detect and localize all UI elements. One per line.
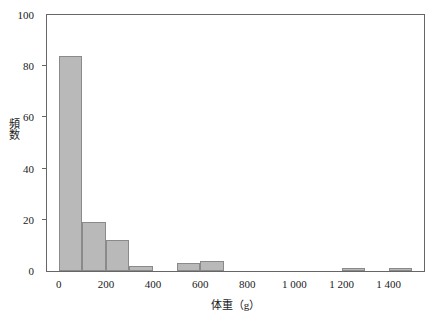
x-axis-tick-label: 1 000 [282, 276, 307, 292]
y-axis-tick-label: 60 [23, 109, 34, 125]
x-axis-tick-label: 0 [56, 276, 62, 292]
y-axis-tick-label: 40 [23, 161, 34, 177]
x-axis-tick-label: 600 [192, 276, 209, 292]
histogram-figure: 020406080100 02004006008001 0001 2001 40… [0, 0, 434, 323]
x-axis-tick-label: 400 [145, 276, 162, 292]
y-axis-title: 頻数 [6, 118, 20, 140]
y-axis-tick [42, 168, 47, 169]
x-axis-tick-label: 1 200 [329, 276, 354, 292]
y-axis-tick-label: 80 [23, 58, 34, 74]
x-axis-tick-label: 1 400 [376, 276, 401, 292]
x-axis-title: 体重（g） [46, 298, 425, 312]
y-axis-tick [42, 116, 47, 117]
y-axis-tick [42, 219, 47, 220]
y-axis: 020406080100 [47, 15, 424, 271]
y-axis-tick [42, 65, 47, 66]
y-axis-tick-label: 20 [23, 212, 34, 228]
x-axis-tick-label: 200 [98, 276, 115, 292]
x-axis-tick-label: 800 [239, 276, 256, 292]
y-axis-tick-label: 0 [29, 263, 35, 279]
plot-area: 020406080100 02004006008001 0001 2001 40… [46, 14, 425, 272]
y-axis-tick-label: 100 [18, 7, 35, 23]
